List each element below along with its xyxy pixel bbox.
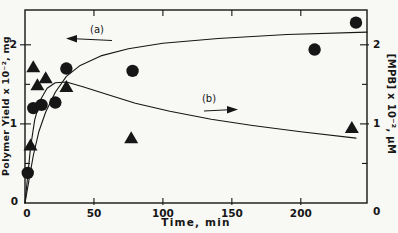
- curve-b-arrow: [204, 106, 238, 114]
- mpb-concentration-point: [345, 121, 359, 133]
- mpb-concentration-point: [39, 71, 53, 83]
- y-axis-left-label: Polymer Yield x 10⁻², mg: [0, 36, 11, 176]
- x-tick-label: 50: [87, 207, 102, 219]
- polymer-yield-point: [308, 43, 320, 55]
- polymer-yield-point: [60, 62, 72, 74]
- y-tick-label-right: 2: [373, 38, 380, 50]
- fitted-curves: [25, 32, 367, 203]
- polymer-yield-point: [22, 167, 34, 179]
- figure: 501001502001122000 Polymer Yield x 10⁻²,…: [0, 0, 398, 233]
- polymer-yield-point: [49, 96, 61, 108]
- chart-canvas: 501001502001122000 Polymer Yield x 10⁻²,…: [0, 0, 398, 233]
- curve-a: [25, 32, 367, 203]
- x-axis-label: Time, min: [161, 216, 230, 228]
- y-zero-label-right: 0: [373, 205, 380, 217]
- y-axis-right-label: [MPB] x 10⁻², μM: [386, 54, 397, 154]
- mpb-concentration-point: [124, 131, 138, 143]
- curve-a-arrow: [66, 35, 112, 43]
- curve-b-label: (b): [202, 93, 216, 104]
- polymer-yield-point: [126, 65, 138, 77]
- x-zero-label: 0: [23, 207, 30, 219]
- x-tick-label: 200: [290, 207, 312, 219]
- mpb-concentration-point: [26, 60, 40, 72]
- y-tick-label-right: 1: [373, 117, 380, 129]
- polymer-yield-point: [35, 99, 47, 111]
- curve-a-label: (a): [90, 24, 104, 35]
- polymer-yield-point: [350, 16, 362, 28]
- y-zero-label-left: 0: [11, 195, 18, 207]
- curve-b: [25, 82, 356, 203]
- mpb-concentration-point: [59, 80, 73, 92]
